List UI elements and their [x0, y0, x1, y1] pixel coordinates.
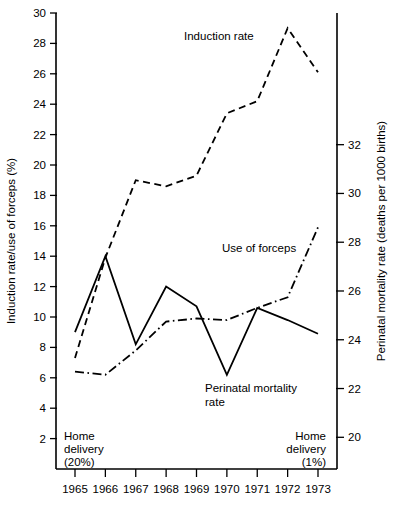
right-tick-label: 20	[348, 431, 361, 443]
chart-container: 24681012141618202224262830 2022242628303…	[0, 0, 396, 512]
home-delivery-right-line3: (1%)	[302, 456, 326, 468]
left-axis-title: Induction rate/use of forceps (%)	[5, 158, 17, 324]
left-tick-label: 14	[33, 250, 46, 262]
use-of-forceps-label: Use of forceps	[222, 242, 296, 254]
right-tick-label: 24	[348, 334, 361, 346]
x-axis-ticks: 196519661967196819691970197119721973	[62, 469, 331, 495]
left-tick-label: 22	[33, 129, 46, 141]
induction-rate-label: Induction rate	[184, 30, 254, 42]
home-delivery-left-line2: delivery	[64, 443, 104, 455]
left-axis-ticks: 24681012141618202224262830	[33, 7, 57, 445]
x-axis-year-label: 1971	[244, 483, 270, 495]
x-axis-year-label: 1968	[153, 483, 179, 495]
home-delivery-right-line2: delivery	[286, 443, 326, 455]
home-delivery-left-line1: Home	[64, 430, 95, 442]
left-tick-label: 26	[33, 68, 46, 80]
x-axis-year-label: 1972	[275, 483, 301, 495]
left-tick-label: 12	[33, 281, 46, 293]
left-tick-label: 16	[33, 220, 46, 232]
left-tick-label: 2	[40, 433, 46, 445]
x-axis-year-label: 1969	[184, 483, 210, 495]
left-tick-label: 8	[40, 341, 46, 353]
left-tick-label: 10	[33, 311, 46, 323]
series-perinatal-mortality-rate	[75, 256, 318, 375]
perinatal-mortality-label-line1: Perinatal mortality	[205, 382, 297, 394]
home-delivery-left-line3: (20%)	[64, 456, 95, 468]
x-axis-year-label: 1973	[305, 483, 331, 495]
right-tick-label: 30	[348, 187, 361, 199]
left-tick-label: 18	[33, 189, 46, 201]
x-axis-year-label: 1966	[93, 483, 119, 495]
left-tick-label: 28	[33, 37, 46, 49]
series-group	[75, 28, 318, 375]
x-axis-year-label: 1967	[123, 483, 149, 495]
left-tick-label: 4	[40, 402, 47, 414]
right-axis-title: Perinatal mortality rate (deaths per 100…	[375, 121, 387, 362]
home-delivery-right-line1: Home	[295, 430, 326, 442]
right-tick-label: 32	[348, 139, 361, 151]
left-tick-label: 6	[40, 372, 46, 384]
line-chart: 24681012141618202224262830 2022242628303…	[0, 0, 396, 512]
right-tick-label: 22	[348, 383, 361, 395]
axes-frame	[56, 13, 337, 469]
perinatal-mortality-label-line2: rate	[205, 396, 225, 408]
right-tick-label: 28	[348, 236, 361, 248]
left-tick-label: 30	[33, 7, 46, 19]
x-axis-year-label: 1970	[214, 483, 240, 495]
left-tick-label: 24	[33, 98, 46, 110]
right-axis-ticks: 20222426283032	[336, 139, 361, 444]
right-tick-label: 26	[348, 285, 361, 297]
x-axis-year-label: 1965	[62, 483, 88, 495]
left-tick-label: 20	[33, 159, 46, 171]
